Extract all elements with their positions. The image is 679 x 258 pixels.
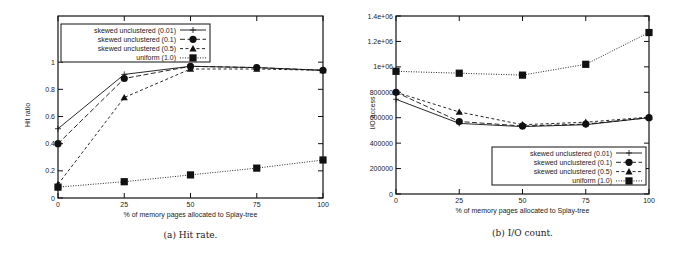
series-line bbox=[58, 66, 323, 128]
square-marker-icon bbox=[392, 68, 399, 75]
x-tick-label: 25 bbox=[455, 197, 463, 204]
square-marker-icon bbox=[645, 29, 652, 36]
x-axis-title: % of memory pages allocated to Splay-tre… bbox=[124, 211, 258, 219]
y-tick-label: 0 bbox=[51, 195, 55, 202]
y-tick-label: 1.4e+06 bbox=[368, 13, 394, 20]
y-axis-title: I/O access bbox=[369, 96, 376, 130]
io-count-chart: 02000004000006000008000001e+061.2e+061.4… bbox=[368, 13, 655, 239]
x-tick-label: 0 bbox=[56, 201, 60, 208]
y-tick-label: 0 bbox=[389, 191, 393, 198]
series-triangle bbox=[54, 65, 326, 187]
plus-marker-icon bbox=[393, 96, 399, 102]
legend: skewed unclustered (0.01)skewed uncluste… bbox=[492, 147, 646, 185]
square-marker-icon bbox=[187, 171, 194, 178]
series-line bbox=[396, 33, 649, 76]
square-legend-icon bbox=[625, 177, 632, 184]
x-tick-label: 50 bbox=[187, 201, 195, 208]
square-marker-icon bbox=[519, 72, 526, 79]
series-circle bbox=[54, 63, 326, 148]
legend: skewed unclustered (0.01)skewed uncluste… bbox=[61, 24, 210, 62]
circle-legend-icon bbox=[189, 36, 196, 43]
x-tick-label: 75 bbox=[253, 201, 261, 208]
circle-marker-icon bbox=[456, 118, 463, 125]
y-tick-label: 0.4 bbox=[45, 140, 55, 147]
y-tick-label: 200000 bbox=[370, 165, 393, 172]
x-axis-title: % of memory pages allocated to Splay-tre… bbox=[456, 207, 590, 215]
y-tick-label: 400000 bbox=[370, 140, 393, 147]
y-tick-label: 0.8 bbox=[45, 86, 55, 93]
y-tick-label: 800000 bbox=[370, 89, 393, 96]
figure-caption: (b) I/O count. bbox=[492, 228, 553, 238]
y-tick-label: 0.2 bbox=[45, 167, 55, 174]
series-line bbox=[58, 69, 323, 184]
square-legend-icon bbox=[189, 54, 196, 61]
y-axis-title: Hit ratio bbox=[24, 103, 31, 127]
legend-label: uniform (1.0) bbox=[572, 177, 612, 185]
series-line bbox=[396, 92, 649, 124]
square-marker-icon bbox=[121, 178, 128, 185]
legend-label: skewed unclustered (0.01) bbox=[530, 150, 612, 158]
legend-label: skewed unclustered (0.5) bbox=[534, 168, 612, 176]
square-marker-icon bbox=[253, 165, 260, 172]
y-tick-label: 1.2e+06 bbox=[368, 38, 394, 45]
series-square bbox=[392, 29, 652, 79]
legend-label: skewed unclustered (0.1) bbox=[534, 159, 612, 167]
x-tick-label: 0 bbox=[394, 197, 398, 204]
circle-marker-icon bbox=[54, 140, 61, 147]
figure: 00.20.40.60.810255075100% of memory page… bbox=[0, 0, 679, 258]
y-tick-label: 1 bbox=[51, 59, 55, 66]
series-plus bbox=[55, 63, 326, 131]
series-line bbox=[396, 92, 649, 126]
legend-label: skewed unclustered (0.5) bbox=[98, 45, 176, 53]
square-marker-icon bbox=[319, 156, 326, 163]
x-tick-label: 75 bbox=[582, 197, 590, 204]
x-tick-label: 50 bbox=[519, 197, 527, 204]
circle-legend-icon bbox=[625, 159, 632, 166]
series-line bbox=[58, 66, 323, 143]
triangle-marker-icon bbox=[456, 108, 463, 114]
legend-label: skewed unclustered (0.1) bbox=[98, 36, 176, 44]
triangle-marker-icon bbox=[121, 94, 128, 100]
circle-marker-icon bbox=[121, 75, 128, 82]
y-tick-label: 0.6 bbox=[45, 113, 55, 120]
legend-label: uniform (1.0) bbox=[136, 54, 176, 62]
x-tick-label: 100 bbox=[317, 201, 329, 208]
figure-caption: (a) Hit rate. bbox=[164, 230, 218, 240]
y-tick-label: 1e+06 bbox=[373, 63, 393, 70]
x-tick-label: 25 bbox=[120, 201, 128, 208]
square-marker-icon bbox=[582, 61, 589, 68]
series-square bbox=[54, 156, 326, 190]
hit-rate-chart: 00.20.40.60.810255075100% of memory page… bbox=[24, 16, 329, 240]
square-marker-icon bbox=[54, 184, 61, 191]
x-tick-label: 100 bbox=[643, 197, 655, 204]
legend-label: skewed unclustered (0.01) bbox=[94, 27, 176, 35]
square-marker-icon bbox=[456, 70, 463, 77]
